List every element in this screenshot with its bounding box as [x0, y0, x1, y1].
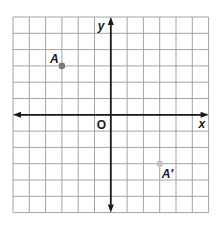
x-axis-left-arrow-icon — [13, 112, 21, 118]
point-label: A — [49, 52, 59, 66]
point-a — [59, 63, 66, 70]
coordinate-plane: AA′ x y O — [0, 0, 219, 232]
y-axis-up-arrow-icon — [108, 17, 114, 25]
y-axis-label: y — [97, 19, 106, 33]
axes — [13, 17, 209, 213]
point-label: A′ — [161, 167, 175, 181]
x-axis-label: x — [198, 117, 207, 131]
origin-label: O — [97, 118, 106, 132]
y-axis-down-arrow-icon — [108, 205, 114, 213]
